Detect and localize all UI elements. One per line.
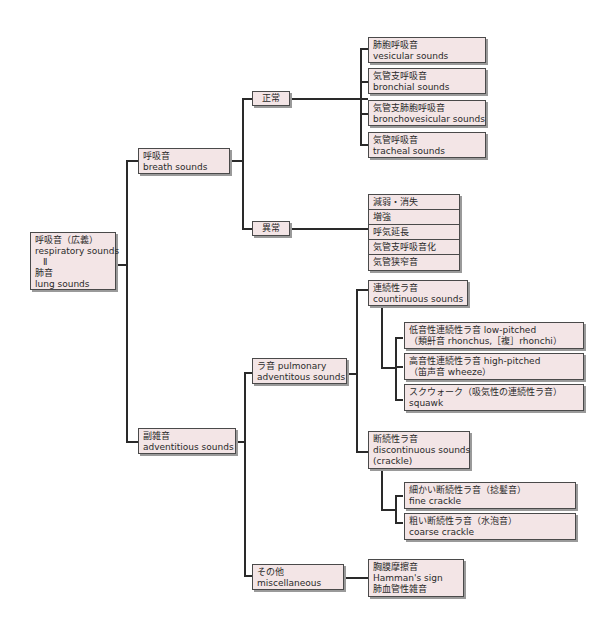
node-label: その他 (257, 567, 339, 578)
connector (381, 306, 383, 368)
connector (360, 48, 368, 50)
node-normal: 正常 (252, 91, 290, 106)
node-label: bronchial sounds (373, 82, 481, 93)
node-label: fine crackle (409, 496, 571, 507)
node-label: miscellaneous (257, 578, 339, 589)
connector (356, 289, 368, 291)
abnormal-item: 気管狭窄音 (369, 255, 459, 270)
node-label: （笛声音 wheeze） (409, 367, 579, 378)
node-continuous-sounds: 連続性ラ音 countinuous sounds (368, 280, 468, 306)
connector (230, 160, 242, 162)
node-label: 肺音 (35, 268, 111, 279)
connector (290, 98, 368, 100)
node-label: countinuous sounds (373, 294, 463, 305)
node-squawk: スクウォーク（吸気性の連続性ラ音） squawk (404, 384, 584, 411)
node-label: 胸膜摩擦音 (373, 562, 459, 573)
node-label: 細かい断続性ラ音（捻髪音） (409, 485, 571, 496)
abnormal-list: 減弱・消失 増強 呼気延長 気管支呼吸音化 気管狭窄音 (368, 194, 460, 271)
connector (395, 399, 403, 401)
connector (126, 160, 138, 162)
node-label: 肺胞呼吸音 (373, 40, 481, 51)
connector (242, 98, 252, 100)
node-label: 連続性ラ音 (373, 283, 463, 294)
node-label: Hamman's sign (373, 573, 459, 584)
connector (244, 372, 252, 374)
connector (395, 495, 403, 497)
connector (126, 160, 128, 442)
node-label: 呼吸音（広義） (35, 235, 111, 246)
connector (242, 228, 252, 230)
node-fine-crackle: 細かい断続性ラ音（捻髪音） fine crackle (404, 482, 576, 509)
node-label: 異常 (253, 223, 289, 234)
node-label: 気管支肺胞呼吸音 (373, 103, 481, 114)
connector (360, 81, 368, 83)
connector (356, 289, 358, 452)
abnormal-item: 呼気延長 (369, 225, 459, 240)
node-label: adventitious sounds (143, 442, 231, 453)
connector (356, 451, 368, 453)
node-label: （類鼾音 rhonchus,［複］rhonchi） (409, 336, 579, 347)
node-bronchial: 気管支呼吸音 bronchial sounds (368, 68, 486, 94)
node-label: adventitous sounds (257, 372, 342, 383)
connector (395, 337, 403, 339)
connector (360, 48, 362, 144)
node-label: Ⅱ (35, 257, 111, 268)
connector (244, 575, 252, 577)
connector (381, 509, 395, 511)
connector (360, 144, 368, 146)
node-label: squawk (409, 398, 579, 409)
node-high-pitched: 高音性連続性ラ音 high-pitched （笛声音 wheeze） (404, 353, 584, 380)
node-tracheal: 気管呼吸音 tracheal sounds (368, 132, 486, 158)
node-label: 低音性連続性ラ音 low-pitched (409, 325, 579, 336)
node-label: 粗い断続性ラ音（水泡音） (409, 516, 571, 527)
node-label: coarse crackle (409, 527, 571, 538)
node-vesicular: 肺胞呼吸音 vesicular sounds (368, 37, 486, 63)
abnormal-item: 増強 (369, 210, 459, 225)
node-label: ラ音 pulmonary (257, 361, 342, 372)
node-label: 断続性ラ音 (373, 434, 465, 445)
connector (381, 468, 383, 510)
abnormal-item: 気管支呼吸音化 (369, 240, 459, 255)
connector (244, 372, 246, 576)
node-label: lung sounds (35, 279, 111, 290)
connector (395, 366, 403, 368)
connector (381, 367, 395, 369)
node-miscellaneous: その他 miscellaneous (252, 564, 344, 590)
connector (242, 98, 244, 229)
connector (116, 264, 126, 266)
node-label: 呼吸音 (143, 151, 225, 162)
node-adventitious-sounds: 副雑音 adventitious sounds (138, 428, 236, 454)
node-coarse-crackle: 粗い断続性ラ音（水泡音） coarse crackle (404, 513, 576, 540)
connector (347, 373, 356, 375)
connector (236, 441, 244, 443)
node-label: respiratory sounds (35, 246, 111, 257)
node-bronchovesicular: 気管支肺胞呼吸音 bronchovesicular sounds (368, 100, 486, 126)
connector (290, 228, 368, 230)
connector (395, 337, 397, 400)
node-label: breath sounds (143, 162, 225, 173)
node-label: vesicular sounds (373, 51, 481, 62)
node-label: スクウォーク（吸気性の連続性ラ音） (409, 387, 579, 398)
abnormal-item: 減弱・消失 (369, 195, 459, 210)
node-label: bronchovesicular sounds (373, 114, 481, 125)
node-discontinuous-sounds: 断続性ラ音 discontinuous sounds (crackle) (368, 431, 470, 469)
node-label: 高音性連続性ラ音 high-pitched (409, 356, 579, 367)
connector (395, 495, 397, 523)
node-misc-items: 胸膜摩擦音 Hamman's sign 肺血管性雑音 (368, 559, 464, 597)
node-label: 正常 (253, 93, 289, 104)
node-breath-sounds: 呼吸音 breath sounds (138, 148, 230, 174)
node-label: discontinuous sounds (373, 445, 465, 456)
node-respiratory-sounds: 呼吸音（広義） respiratory sounds Ⅱ 肺音 lung sou… (30, 232, 116, 290)
node-label: 気管支呼吸音 (373, 71, 481, 82)
connector (360, 113, 368, 115)
node-label: tracheal sounds (373, 146, 481, 157)
connector (126, 441, 138, 443)
node-label: 肺血管性雑音 (373, 584, 459, 595)
node-label: 副雑音 (143, 431, 231, 442)
node-pulmonary-adventitious: ラ音 pulmonary adventitous sounds (252, 358, 347, 384)
node-abnormal: 異常 (252, 221, 290, 236)
node-low-pitched: 低音性連続性ラ音 low-pitched （類鼾音 rhonchus,［複］rh… (404, 322, 584, 349)
node-label: 気管呼吸音 (373, 135, 481, 146)
connector (344, 577, 368, 579)
connector (395, 522, 403, 524)
